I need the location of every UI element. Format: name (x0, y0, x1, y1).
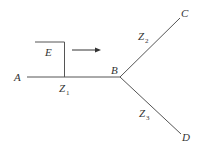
impedance-z1-label: Z 1 (59, 82, 70, 97)
svg-text:1: 1 (66, 89, 70, 97)
svg-text:Z: Z (59, 82, 66, 94)
svg-text:Z: Z (139, 107, 146, 119)
svg-text:2: 2 (145, 37, 149, 45)
node-label-a: A (13, 71, 21, 83)
diagram-canvas: A E B C D Z 1 Z 2 Z 3 (0, 0, 197, 150)
arrow-right-icon (95, 48, 101, 53)
impedance-z2-label: Z 2 (138, 30, 149, 45)
node-label-c: C (181, 7, 189, 19)
node-label-d: D (181, 131, 190, 143)
source-label-e: E (44, 46, 52, 58)
line-b-d (120, 77, 181, 134)
svg-text:Z: Z (138, 30, 145, 42)
svg-text:3: 3 (146, 114, 150, 122)
node-label-b: B (111, 64, 118, 76)
line-b-c (120, 18, 180, 77)
impedance-z3-label: Z 3 (139, 107, 150, 122)
